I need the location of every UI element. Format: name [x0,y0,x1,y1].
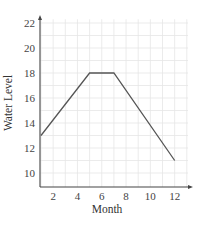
grid-lines [40,19,188,187]
x-tick-labels: 24681012 [50,190,180,202]
y-tick-label: 12 [24,142,35,154]
y-tick-label: 14 [24,117,36,129]
x-tick-label: 6 [99,190,105,202]
line-chart: 24681012 10121416182022 Month Water Leve… [0,0,203,227]
y-tick-label: 10 [24,167,36,179]
x-tick-label: 12 [169,190,180,202]
y-tick-labels: 10121416182022 [24,17,36,179]
y-axis-label: Water Level [2,75,14,131]
x-tick-label: 2 [50,190,56,202]
y-tick-label: 20 [24,42,36,54]
data-line [41,73,175,161]
x-tick-label: 10 [145,190,157,202]
x-tick-label: 8 [123,190,129,202]
y-tick-label: 16 [24,92,36,104]
axes [38,15,193,189]
y-tick-label: 22 [24,17,35,29]
x-axis-label: Month [92,203,123,215]
x-tick-label: 4 [75,190,81,202]
y-tick-label: 18 [24,67,36,79]
